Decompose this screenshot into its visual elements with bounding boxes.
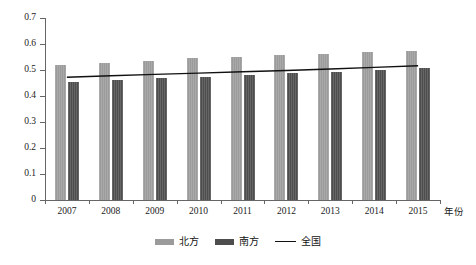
legend-label: 南方 — [239, 236, 259, 247]
bar-south — [112, 80, 123, 200]
x-tick-mark — [308, 200, 309, 204]
bar-south — [156, 78, 167, 200]
y-tick-label: 0 — [0, 195, 36, 205]
bar-north — [318, 54, 329, 200]
x-tick-mark — [133, 200, 134, 204]
y-tick-label: 0.5 — [0, 65, 36, 75]
x-axis-caption: 年份 — [444, 206, 464, 217]
bar-north — [143, 61, 154, 200]
x-tick-label: 2015 — [396, 206, 440, 217]
x-tick-label: 2014 — [352, 206, 396, 217]
x-tick-mark — [352, 200, 353, 204]
legend-item[interactable]: 北方 — [155, 236, 199, 247]
bar-south — [287, 73, 298, 200]
legend-color-swatch-icon — [215, 239, 234, 245]
bar-south — [419, 68, 430, 200]
bar-south — [244, 75, 255, 200]
y-tick-label: 0.1 — [0, 169, 36, 179]
y-tick-label: 0.7 — [0, 13, 36, 23]
x-tick-label: 2009 — [133, 206, 177, 217]
chart-legend: 北方南方全国 — [0, 236, 476, 247]
legend-label: 全国 — [301, 236, 321, 247]
legend-item[interactable]: 全国 — [275, 236, 321, 247]
y-tick-mark — [40, 44, 45, 45]
bar-north — [231, 57, 242, 200]
bar-north — [406, 51, 417, 201]
y-tick-label: 0.2 — [0, 143, 36, 153]
bar-south — [375, 70, 386, 200]
x-tick-mark — [396, 200, 397, 204]
x-tick-label: 2012 — [264, 206, 308, 217]
legend-label: 北方 — [179, 236, 199, 247]
x-tick-label: 2010 — [177, 206, 221, 217]
y-tick-mark — [40, 122, 45, 123]
bar-north — [187, 58, 198, 200]
x-tick-mark — [89, 200, 90, 204]
legend-line-swatch-icon — [275, 241, 296, 242]
y-tick-label: 0.3 — [0, 117, 36, 127]
x-tick-mark — [45, 200, 46, 204]
y-tick-label: 0.6 — [0, 39, 36, 49]
legend-color-swatch-icon — [155, 239, 174, 245]
x-tick-label: 2008 — [89, 206, 133, 217]
x-tick-label: 2007 — [45, 206, 89, 217]
y-tick-mark — [40, 18, 45, 19]
bar-north — [55, 65, 66, 200]
chart-container: 00.10.20.30.40.50.60.7 20072008200920102… — [0, 0, 476, 265]
y-tick-mark — [40, 96, 45, 97]
bar-north — [362, 52, 373, 200]
bar-south — [331, 72, 342, 200]
x-tick-mark — [264, 200, 265, 204]
x-tick-mark — [440, 200, 441, 204]
x-tick-mark — [177, 200, 178, 204]
bar-north — [99, 63, 110, 200]
bar-south — [200, 77, 211, 201]
x-tick-label: 2013 — [308, 206, 352, 217]
y-tick-mark — [40, 70, 45, 71]
bar-south — [68, 82, 79, 200]
x-axis-line — [45, 200, 440, 201]
y-tick-mark — [40, 174, 45, 175]
x-tick-label: 2011 — [221, 206, 265, 217]
legend-item[interactable]: 南方 — [215, 236, 259, 247]
x-tick-mark — [221, 200, 222, 204]
y-tick-label: 0.4 — [0, 91, 36, 101]
y-axis-line — [45, 18, 46, 201]
y-tick-mark — [40, 148, 45, 149]
bar-north — [274, 55, 285, 200]
